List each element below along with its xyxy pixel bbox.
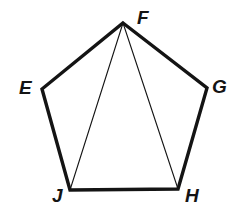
vertex-label-f: F [137, 8, 149, 27]
vertex-label-h: H [185, 186, 199, 205]
vertex-label-e: E [19, 78, 32, 97]
diagram-background [0, 0, 248, 219]
vertex-label-j: J [52, 186, 63, 205]
pentagon-svg [0, 0, 248, 219]
vertex-label-g: G [212, 77, 227, 96]
pentagon-diagram: F E G J H [0, 0, 248, 219]
